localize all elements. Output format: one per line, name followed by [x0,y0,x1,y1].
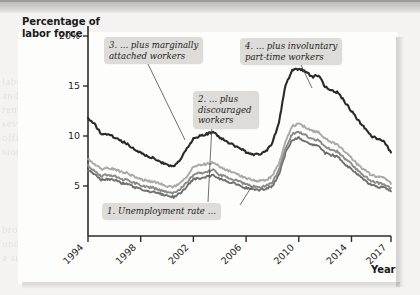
scanned-page: labor force participation and employment… [0,0,420,295]
y-tick-label: 15 [68,80,80,91]
x-tick-label: 1998 [113,242,138,267]
chart-series-line [88,123,391,187]
y-axis-ticks: 5101520% [59,30,88,191]
callout-unemployment-rate: 1. Unemployment rate ... [102,203,221,220]
chart-series-line [88,137,391,198]
x-tick-label: 2010 [271,242,296,267]
x-tick-label: 2014 [324,242,349,267]
y-tick-label: 5 [74,180,80,191]
x-tick-label: 2017 [364,242,389,267]
y-tick-label: 10 [68,130,80,141]
x-tick-label: 1994 [61,242,86,267]
callout-marginally-attached-workers: 3. ... plus marginally attached workers [104,37,203,64]
x-axis-ticks: 1994199820022006201020142017 [61,236,391,267]
callout-involuntary-part-time-workers: 4. ... plus involuntary part-time worker… [240,38,342,65]
y-tick-label: 20% [59,30,80,41]
callout-discouraged-workers: 2. ... plus discouraged workers [193,91,259,129]
series-paths [88,69,391,198]
leader-line-1 [240,186,252,205]
x-tick-label: 2006 [219,242,244,267]
x-tick-label: 2002 [166,242,191,267]
leader-line-3 [147,62,185,140]
chart-svg: 5101520% 1994199820022006201020142017 [0,0,420,295]
plot-area: 5101520% 1994199820022006201020142017 [0,0,420,295]
